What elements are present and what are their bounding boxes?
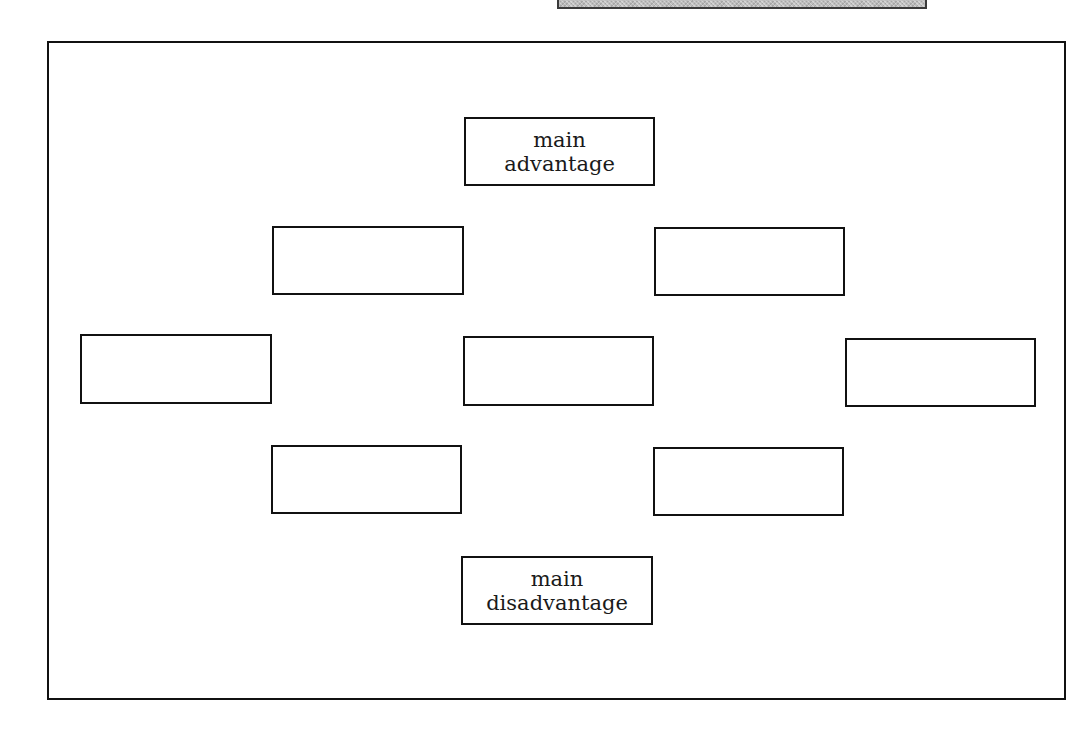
upper-right-box[interactable]	[654, 227, 845, 296]
main-disadvantage-label: main disadvantage	[486, 567, 628, 615]
middle-right-box[interactable]	[845, 338, 1036, 407]
top-title-strip	[557, 0, 927, 9]
lower-left-box[interactable]	[271, 445, 462, 514]
upper-left-box[interactable]	[272, 226, 464, 295]
main-disadvantage-box: main disadvantage	[461, 556, 653, 625]
middle-left-box[interactable]	[80, 334, 272, 404]
main-advantage-box: main advantage	[464, 117, 655, 186]
center-box[interactable]	[463, 336, 654, 406]
lower-right-box[interactable]	[653, 447, 844, 516]
main-advantage-label: main advantage	[504, 128, 615, 176]
